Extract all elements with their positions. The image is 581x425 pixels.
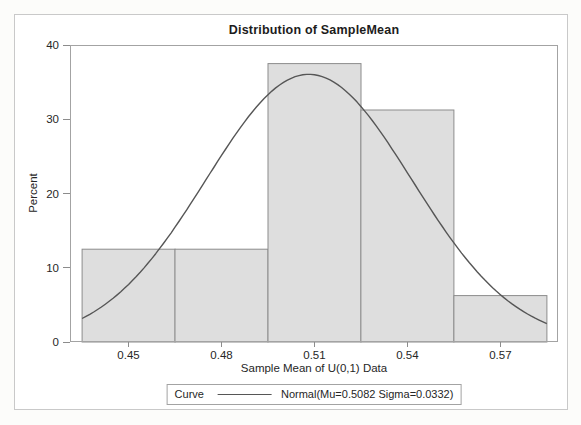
- x-tick-label: 0.57: [489, 349, 511, 361]
- x-tick: [500, 342, 501, 347]
- x-tick-label: 0.45: [117, 349, 139, 361]
- y-tick-label: 20: [23, 187, 59, 201]
- y-tick-label: 10: [23, 261, 59, 275]
- x-tick-label: 0.54: [396, 349, 418, 361]
- chart-frame: Distribution of SampleMean Percent 01020…: [14, 14, 568, 410]
- y-tick: [63, 119, 70, 120]
- plot-canvas: [70, 45, 558, 342]
- plot-area: Percent 0102030400.450.480.510.540.57: [70, 45, 558, 342]
- x-tick: [314, 342, 315, 347]
- y-tick-label: 30: [23, 112, 59, 126]
- chart-title: Distribution of SampleMean: [70, 23, 558, 37]
- x-tick: [221, 342, 222, 347]
- x-axis-title: Sample Mean of U(0,1) Data: [70, 362, 558, 374]
- legend: Curve Normal(Mu=0.5082 Sigma=0.0332): [167, 384, 462, 405]
- histogram-bar: [454, 296, 547, 342]
- y-tick: [63, 342, 70, 343]
- histogram-bar: [268, 64, 361, 342]
- legend-title: Curve: [175, 388, 204, 400]
- histogram-bar: [82, 249, 175, 342]
- x-tick: [407, 342, 408, 347]
- x-tick: [128, 342, 129, 347]
- x-tick-label: 0.51: [303, 349, 325, 361]
- x-tick-label: 0.48: [210, 349, 232, 361]
- y-tick: [63, 193, 70, 194]
- y-tick: [63, 45, 70, 46]
- legend-entry: Normal(Mu=0.5082 Sigma=0.0332): [281, 388, 453, 400]
- histogram-bar: [175, 249, 268, 342]
- y-tick: [63, 267, 70, 268]
- y-tick-label: 40: [23, 38, 59, 52]
- histogram-bar: [361, 110, 454, 342]
- curve-line-sample-icon: [218, 394, 272, 395]
- y-tick-label: 0: [23, 335, 59, 349]
